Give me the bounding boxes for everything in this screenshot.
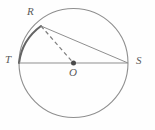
vertex-label-R: R: [27, 6, 34, 17]
vertex-label-T: T: [5, 54, 11, 65]
segment-chord-RS: [41, 26, 128, 63]
segment-radius-RO-dashed: [41, 26, 74, 63]
geometry-figure: R T O S: [0, 0, 155, 130]
vertex-label-O: O: [69, 67, 77, 78]
center-point-dot: [71, 61, 76, 66]
vertex-label-S: S: [136, 55, 142, 66]
circle-diagram-svg: [0, 0, 155, 130]
